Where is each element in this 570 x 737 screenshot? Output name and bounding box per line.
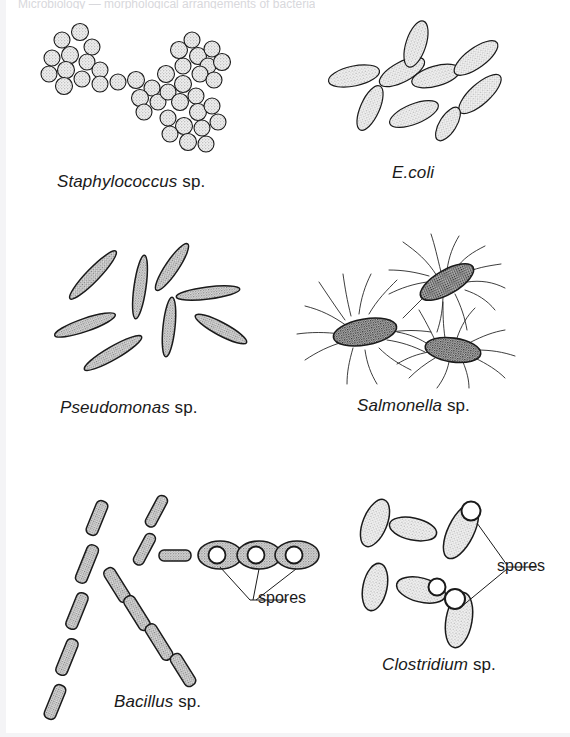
bacillus-chains: [43, 494, 231, 721]
sp-suffix-bacillus: sp.: [173, 692, 201, 711]
sp-suffix-staphylococcus: sp.: [177, 172, 205, 191]
sp-suffix-clostridium: sp.: [468, 655, 496, 674]
bacillus-endospores: [209, 547, 303, 564]
cropped-header-text: Microbiology — morphological arrangement…: [18, 0, 315, 9]
caption-staphylococcus: Staphylococcus sp.: [57, 172, 205, 192]
ecoli-drawing: [330, 28, 540, 163]
salmonella-drawing: [295, 230, 540, 390]
caption-bacillus: Bacillus sp.: [114, 692, 201, 712]
genus-name-bacillus: Bacillus: [114, 692, 173, 711]
genus-name-salmonella: Salmonella: [357, 396, 442, 415]
genus-name-pseudomonas: Pseudomonas: [60, 398, 170, 417]
caption-salmonella: Salmonella sp.: [357, 396, 470, 416]
pseudomonas-drawing: [55, 245, 255, 390]
annotation-spores-clostridium: spores: [497, 557, 545, 575]
scan-edge-artifact-left: [0, 0, 6, 737]
genus-name-staphylococcus: Staphylococcus: [57, 172, 177, 191]
caption-pseudomonas: Pseudomonas sp.: [60, 398, 198, 418]
salmonella-cells: [331, 257, 482, 366]
flagella-group: [297, 234, 515, 388]
sp-suffix-salmonella: sp.: [442, 396, 470, 415]
scan-edge-artifact-bottom: [0, 733, 570, 737]
caption-ecoli: E.coli: [392, 163, 434, 183]
sp-suffix-pseudomonas: sp.: [170, 398, 198, 417]
caption-clostridium: Clostridium sp.: [382, 655, 496, 675]
genus-name-clostridium: Clostridium: [382, 655, 468, 674]
annotation-spores-bacillus: spores: [258, 589, 306, 607]
genus-name-ecoli: E.coli: [392, 163, 434, 182]
bacteria-morphology-figure: Microbiology — morphological arrangement…: [0, 0, 570, 737]
bacillus-drawing: [35, 470, 335, 685]
staphylococcus-drawing: [40, 22, 270, 172]
